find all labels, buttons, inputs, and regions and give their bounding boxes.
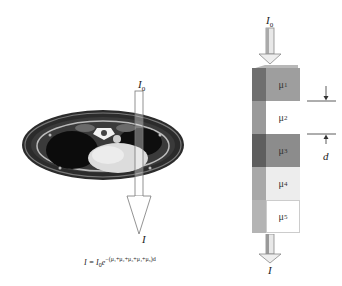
ct-slice-image: [0, 0, 210, 250]
block-side: [252, 200, 266, 233]
block-side: [252, 101, 266, 134]
block-exit-intensity-label: I: [268, 264, 272, 276]
thickness-label: d: [323, 150, 329, 162]
thickness-dimension-icon: [306, 84, 342, 144]
block-side: [252, 68, 266, 101]
block-mu4: μ4: [252, 167, 300, 200]
block-front: μ3: [266, 134, 300, 167]
block-mu5: μ5: [252, 200, 300, 233]
block-side: [252, 134, 266, 167]
block-front: μ5: [266, 200, 300, 233]
block-mu1: μ1: [252, 68, 300, 101]
incident-arrow-icon: [254, 26, 294, 66]
block-stack: μ1 μ2 μ3 μ4 μ5: [252, 68, 300, 234]
block-front: μ2: [266, 101, 300, 134]
beam-arrow-icon: [122, 90, 162, 240]
incident-intensity-label: I0: [138, 78, 145, 93]
block-mu2: μ2: [252, 101, 300, 134]
ct-diagram: I0 I: [0, 0, 210, 250]
block-front: μ1: [266, 68, 300, 101]
exit-intensity-label: I: [142, 233, 146, 245]
attenuation-formula: I = I0e−(μ₁+μ₂+μ₃+μ₄+μ₅)d: [84, 256, 156, 268]
block-front: μ4: [266, 167, 300, 200]
block-side: [252, 167, 266, 200]
block-mu3: μ3: [252, 134, 300, 167]
exit-arrow-icon: [254, 234, 294, 264]
layered-block-diagram: I0 μ1 μ2 μ3: [230, 0, 342, 286]
